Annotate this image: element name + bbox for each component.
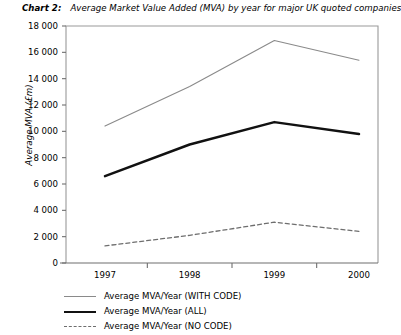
legend-item-label: Average MVA/Year (WITH CODE) [104,291,241,301]
thin-solid-line-icon [63,290,97,301]
series-line [105,40,359,126]
series-line [105,122,359,176]
thick-solid-line-icon [63,305,97,316]
legend-item-label: Average MVA/Year (NO CODE) [104,321,232,331]
legend-item: Average MVA/Year (ALL) [63,303,363,318]
dashed-line-icon [63,320,97,331]
y-tick-marks [62,26,66,263]
chart-legend: Average MVA/Year (WITH CODE)Average MVA/… [63,288,363,333]
series-line [105,222,359,246]
legend-item-label: Average MVA/Year (ALL) [104,306,207,316]
x-tick-marks [147,263,316,268]
legend-item: Average MVA/Year (NO CODE) [63,318,363,333]
legend-item: Average MVA/Year (WITH CODE) [63,288,363,303]
axes-frame [60,26,378,263]
data-series-group [105,40,359,245]
